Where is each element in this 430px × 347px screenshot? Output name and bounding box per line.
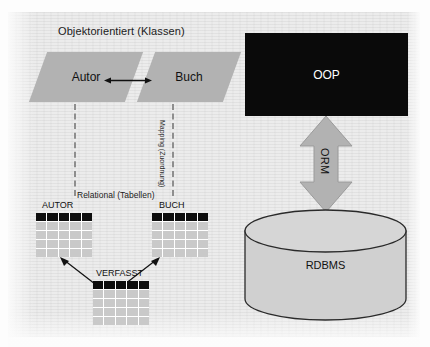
table-header-cell: [175, 213, 185, 221]
table-header-cell: [36, 213, 46, 221]
table-cell: [104, 308, 114, 316]
table-cell: [93, 308, 103, 316]
table-cell: [163, 240, 173, 248]
mapping-line-buch: [172, 104, 174, 196]
table-cell: [116, 290, 126, 298]
table-cell: [175, 231, 185, 239]
table-cell: [47, 231, 57, 239]
table-cell: [198, 231, 208, 239]
table-cell: [36, 240, 46, 248]
class-label-buch: Buch: [146, 52, 232, 102]
association-arrow-icon: [104, 76, 152, 85]
table-cell: [139, 299, 149, 307]
table-cell: [93, 317, 103, 325]
table-cell: [175, 222, 185, 230]
table-cell: [59, 222, 69, 230]
table-cell: [186, 240, 196, 248]
table-cell: [175, 240, 185, 248]
table-grid-verfasst: [93, 281, 149, 325]
table-cell: [36, 231, 46, 239]
table-cell: [104, 317, 114, 325]
table-header-cell: [82, 213, 92, 221]
table-grid-autor: [36, 213, 92, 257]
table-cell: [116, 308, 126, 316]
oop-label: OOP: [245, 33, 408, 116]
table-cell: [70, 222, 80, 230]
table-cell: [116, 299, 126, 307]
table-header-cell: [163, 213, 173, 221]
table-cell: [152, 222, 162, 230]
table-cell: [47, 222, 57, 230]
table-header-cell: [186, 213, 196, 221]
page-edge-fade-left: [8, 12, 34, 337]
table-cell: [104, 299, 114, 307]
table-caption-autor: AUTOR: [42, 201, 73, 210]
table-cell: [36, 249, 46, 257]
page-edge-fade-right: [406, 12, 420, 337]
table-header-cell: [70, 213, 80, 221]
table-cell: [70, 240, 80, 248]
table-grid-buch: [152, 213, 208, 257]
orm-label: ORM: [319, 148, 330, 175]
table-cell: [104, 290, 114, 298]
diagram-canvas: Objektorientiert (Klassen) Autor Buch Ma…: [0, 0, 430, 347]
table-cell: [127, 290, 137, 298]
table-header-cell: [104, 281, 114, 289]
table-cell: [82, 222, 92, 230]
object-oriented-section-title: Objektorientiert (Klassen): [58, 26, 185, 37]
table-cell: [116, 317, 126, 325]
table-caption-verfasst: VERFASST: [96, 269, 143, 278]
table-cell: [186, 249, 196, 257]
table-header-cell: [47, 213, 57, 221]
table-cell: [82, 231, 92, 239]
table-cell: [36, 222, 46, 230]
table-cell: [127, 317, 137, 325]
table-header-cell: [139, 281, 149, 289]
table-cell: [139, 308, 149, 316]
table-cell: [93, 299, 103, 307]
table-cell: [59, 240, 69, 248]
table-cell: [70, 231, 80, 239]
table-caption-buch: BUCH: [159, 201, 185, 210]
table-cell: [139, 290, 149, 298]
mapping-line-autor: [74, 104, 76, 196]
table-cell: [152, 231, 162, 239]
table-cell: [163, 231, 173, 239]
table-header-cell: [116, 281, 126, 289]
table-cell: [186, 231, 196, 239]
rdbms-label: RDBMS: [243, 255, 408, 275]
table-cell: [198, 222, 208, 230]
table-cell: [93, 290, 103, 298]
table-cell: [47, 240, 57, 248]
table-cell: [186, 222, 196, 230]
table-header-cell: [127, 281, 137, 289]
table-cell: [198, 240, 208, 248]
table-cell: [152, 240, 162, 248]
table-header-cell: [152, 213, 162, 221]
table-cell: [127, 299, 137, 307]
table-cell: [139, 317, 149, 325]
table-header-cell: [59, 213, 69, 221]
table-header-cell: [198, 213, 208, 221]
table-cell: [59, 231, 69, 239]
table-cell: [82, 240, 92, 248]
table-cell: [175, 249, 185, 257]
relational-section-title: Relational (Tabellen): [77, 191, 155, 200]
table-cell: [163, 222, 173, 230]
table-header-cell: [93, 281, 103, 289]
table-cell: [198, 249, 208, 257]
table-cell: [127, 308, 137, 316]
mapping-label: Mapping (Zuordnung): [159, 120, 166, 187]
